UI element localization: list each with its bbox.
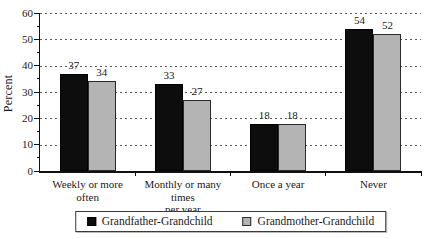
y-tick-50 [34, 39, 39, 40]
y-tick-60 [34, 13, 39, 14]
value-label-1-0: 33 [149, 69, 189, 81]
y-tick-30 [34, 92, 39, 93]
category-label-3: Never [326, 178, 421, 191]
category-label-line: often [40, 191, 135, 204]
y-tick-label-0: 0 [0, 165, 33, 178]
legend-label: Grandmother-Grandchild [258, 215, 375, 227]
value-label-3-1: 52 [367, 19, 407, 31]
y-tick-label-30: 30 [0, 86, 33, 99]
category-label-line: Never [326, 178, 421, 191]
y-minor-tick-25 [37, 105, 40, 106]
y-tick-label-50: 50 [0, 33, 33, 46]
y-tick-20 [34, 118, 39, 119]
y-minor-tick-35 [37, 78, 40, 79]
x-tick-1 [135, 171, 136, 176]
bar-grandfather-grandchild-1 [155, 84, 183, 171]
y-minor-tick-55 [37, 26, 40, 27]
x-axis [40, 171, 422, 173]
bar-grandmother-grandchild-0 [88, 81, 116, 171]
legend-label: Grandfather-Grandchild [102, 215, 213, 227]
category-label-2: Once a year [231, 178, 326, 191]
x-tick-4 [421, 171, 422, 176]
category-label-line: Monthly or many times [135, 178, 230, 203]
y-tick-label-60: 60 [0, 7, 33, 20]
legend: Grandfather-GrandchildGrandmother-Grandc… [75, 211, 387, 232]
value-label-1-1: 27 [177, 85, 217, 97]
legend-item-grandmother: Grandmother-Grandchild [243, 215, 375, 227]
y-tick-label-10: 10 [0, 138, 33, 151]
category-label-1: Monthly or many timesper year [135, 178, 230, 216]
y-axis [39, 13, 41, 173]
y-tick-label-20: 20 [0, 112, 33, 125]
bar-grandmother-grandchild-3 [373, 34, 401, 171]
x-tick-2 [230, 171, 231, 176]
y-tick-10 [34, 144, 39, 145]
value-label-0-1: 34 [82, 66, 122, 78]
x-tick-3 [325, 171, 326, 176]
bar-grandmother-grandchild-1 [183, 100, 211, 171]
legend-swatch-icon [243, 217, 252, 226]
legend-item-grandfather: Grandfather-Grandchild [87, 215, 213, 227]
category-label-line: Weekly or more [40, 178, 135, 191]
y-tick-40 [34, 65, 39, 66]
legend-swatch-icon [87, 217, 96, 226]
bar-grandmother-grandchild-2 [278, 124, 306, 171]
category-label-line: Once a year [231, 178, 326, 191]
value-label-2-1: 18 [272, 109, 312, 121]
bar-grandfather-grandchild-3 [345, 29, 373, 171]
y-minor-tick-45 [37, 52, 40, 53]
y-minor-tick-15 [37, 131, 40, 132]
y-tick-label-40: 40 [0, 59, 33, 72]
grandparent-contact-bar-chart: Percent 01020304050603734Weekly or moreo… [0, 0, 425, 239]
y-tick-0 [34, 171, 39, 172]
category-label-0: Weekly or moreoften [40, 178, 135, 203]
bar-grandfather-grandchild-0 [60, 74, 88, 171]
bar-grandfather-grandchild-2 [250, 124, 278, 171]
y-minor-tick-5 [37, 157, 40, 158]
